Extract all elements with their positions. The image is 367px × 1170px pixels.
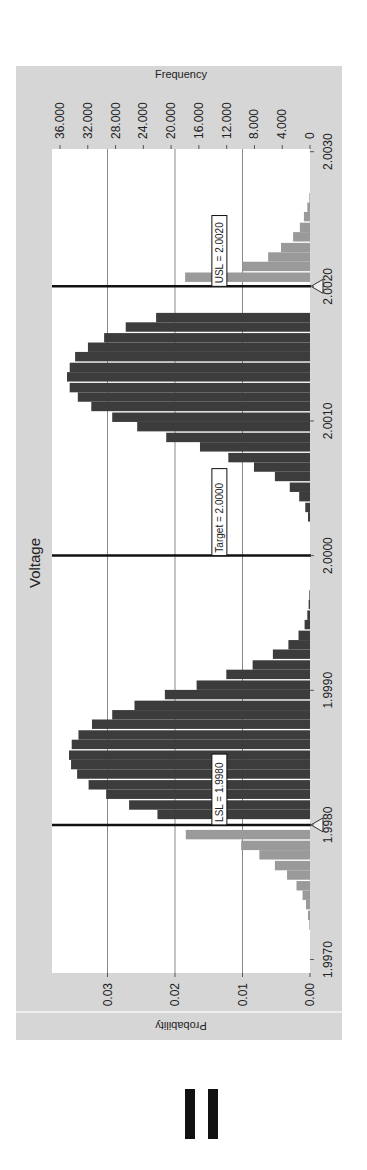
histogram-bar: [156, 313, 310, 322]
histogram-bar: [287, 870, 310, 879]
histogram-bar: [305, 620, 310, 629]
histogram-bar: [89, 780, 310, 789]
spec-label-target: Target = 2.0000: [214, 482, 225, 552]
histogram-bar: [137, 422, 310, 431]
x-tick-label: 2.0020: [321, 268, 335, 305]
histogram-bar: [72, 740, 310, 749]
y-tick-label-left: 0.02: [168, 983, 182, 1007]
y-tick-label-right: 0: [303, 132, 317, 139]
histogram-bar: [300, 223, 310, 232]
x-tick-label: 1.9970: [321, 941, 335, 978]
histogram-bar: [70, 363, 310, 372]
y-axis-label-frequency: Frequency: [155, 68, 207, 80]
histogram-bar: [254, 462, 310, 471]
histogram-bar: [253, 660, 310, 669]
x-tick-label: 1.9980: [321, 806, 335, 843]
histogram-bar: [92, 720, 310, 729]
histogram-bar: [186, 830, 310, 839]
y-tick-label-right: 4.000: [275, 109, 289, 139]
histogram-bar: [309, 920, 310, 929]
histogram-bar: [305, 503, 310, 512]
histogram-bar: [165, 690, 310, 699]
y-tick-label-right: 8.000: [247, 109, 261, 139]
histogram-chart: LSL = 1.9980Target = 2.0000USL = 2.0020 …: [0, 0, 367, 1170]
histogram-bar: [293, 232, 310, 241]
histogram-bar: [69, 750, 310, 759]
y-tick-label-right: 20.000: [164, 102, 178, 139]
histogram-bar: [112, 710, 310, 719]
histogram-bar: [75, 352, 310, 361]
histogram-bar: [185, 272, 310, 281]
histogram-bar: [303, 890, 310, 899]
histogram-bar: [166, 433, 310, 442]
histogram-bar: [71, 760, 310, 769]
y-tick-label-right: 12.000: [220, 102, 234, 139]
histogram-bar: [275, 861, 310, 870]
histogram-bar: [268, 252, 310, 261]
equals-sign-bar-1: [185, 1089, 195, 1139]
histogram-bar: [106, 790, 310, 799]
histogram-bar: [309, 590, 310, 599]
x-tick-label: 2.0030: [321, 133, 335, 170]
histogram-bar: [307, 610, 310, 619]
histogram-bar: [200, 442, 310, 451]
histogram-bar: [297, 881, 311, 890]
histogram-bar: [104, 333, 310, 342]
histogram-bar: [309, 193, 310, 202]
y-axis-label-probability: Probability: [155, 1020, 207, 1032]
equals-sign-bar-2: [208, 1089, 218, 1139]
x-tick-label: 1.9990: [321, 672, 335, 709]
histogram-bar: [259, 850, 310, 859]
histogram-bar: [228, 453, 310, 462]
x-tick-label: 2.0010: [321, 402, 335, 439]
histogram-bar: [126, 322, 310, 331]
histogram-bar: [77, 769, 310, 778]
histogram-bar: [281, 243, 310, 252]
histogram-bar: [307, 202, 310, 211]
y-tick-label-right: 24.000: [136, 102, 150, 139]
histogram-bar: [70, 383, 310, 392]
histogram-bar: [309, 600, 310, 609]
y-tick-label-right: 36.000: [53, 102, 67, 139]
histogram-bar: [78, 730, 310, 739]
y-tick-label-right: 28.000: [109, 102, 123, 139]
histogram-bar: [157, 810, 310, 819]
histogram-bar: [91, 402, 310, 411]
x-tick-label: 2.0000: [321, 537, 335, 574]
histogram-bar: [304, 212, 310, 221]
histogram-bar: [135, 701, 311, 710]
histogram-bar: [273, 649, 310, 658]
histogram-bar: [308, 911, 310, 920]
histogram-bar: [275, 472, 310, 481]
histogram-bar: [67, 372, 310, 381]
histogram-bar: [78, 392, 310, 401]
histogram-bar: [299, 631, 310, 640]
histogram-bar: [243, 262, 311, 271]
histogram-bar: [112, 413, 310, 422]
y-tick-label-right: 32.000: [81, 102, 95, 139]
histogram-bar: [197, 680, 310, 689]
y-tick-label-left: 0.01: [236, 983, 250, 1007]
y-tick-label-right: 16.000: [192, 102, 206, 139]
histogram-bar: [306, 900, 310, 909]
rotated-chart-page: LSL = 1.9980Target = 2.0000USL = 2.0020 …: [0, 0, 367, 1170]
histogram-bar: [288, 640, 310, 649]
spec-label-usl: USL = 2.0020: [214, 222, 225, 284]
histogram-bar: [241, 841, 310, 850]
histogram-bar: [299, 492, 310, 501]
y-tick-label-left: 0.03: [101, 983, 115, 1007]
chart-title: Voltage: [26, 538, 43, 588]
histogram-bar: [308, 512, 310, 521]
histogram-bar: [88, 343, 310, 352]
histogram-bar: [226, 670, 310, 679]
spec-label-lsl: LSL = 1.9980: [214, 762, 225, 822]
histogram-bar: [290, 483, 310, 492]
y-tick-label-left: 0.00: [303, 983, 317, 1007]
